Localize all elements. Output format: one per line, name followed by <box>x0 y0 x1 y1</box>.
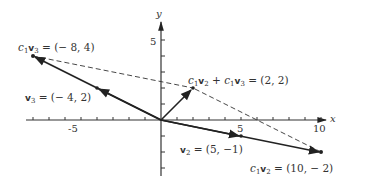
vector-sum <box>161 90 191 120</box>
dashed-line-c1v3-to-sum <box>33 56 193 88</box>
label-v2: v2 = (5, −1) <box>180 144 243 157</box>
y-tick-5: 5 <box>150 37 156 47</box>
label-c1v3: c1v3 = (− 8, 4) <box>18 42 95 55</box>
y-axis <box>161 22 165 176</box>
x-tick-neg5: -5 <box>68 124 78 134</box>
vector-v3 <box>99 89 161 120</box>
x-axis <box>26 117 326 120</box>
x-tick-10: 10 <box>313 124 326 134</box>
label-v3: v3 = (− 4, 2) <box>25 92 91 105</box>
label-c1v2: c1v2 = (10, − 2) <box>250 163 333 176</box>
label-sum: c1v2 + c1v3 = (2, 2) <box>188 75 289 88</box>
vector-diagram: y x -5 5 10 5 c1v3 = (− 8, 4) v3 = (− 4,… <box>0 0 367 185</box>
x-tick-5: 5 <box>237 124 243 134</box>
vector-v2 <box>161 120 239 136</box>
y-axis-label: y <box>156 9 162 19</box>
x-axis-label: x <box>330 114 336 124</box>
